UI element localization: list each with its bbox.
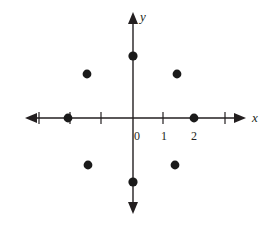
x-tick-label-0: 0 bbox=[134, 129, 140, 143]
data-point bbox=[173, 70, 182, 79]
y-axis-label: y bbox=[138, 9, 146, 24]
data-point bbox=[64, 114, 73, 123]
y-axis-down-arrow-icon bbox=[128, 202, 138, 214]
scatter-plot-svg: 0 1 2 x y bbox=[0, 0, 271, 226]
data-point bbox=[128, 51, 137, 60]
data-point bbox=[171, 161, 180, 170]
x-tick-label-1: 1 bbox=[161, 129, 167, 143]
x-axis-label: x bbox=[251, 110, 258, 125]
data-point bbox=[190, 114, 199, 123]
x-tick-label-2: 2 bbox=[191, 129, 197, 143]
y-axis-up-arrow-icon bbox=[128, 12, 138, 24]
data-point bbox=[84, 161, 93, 170]
coordinate-plane-figure: 0 1 2 x y bbox=[0, 0, 271, 226]
data-point bbox=[128, 177, 137, 186]
x-axis-right-arrow-icon bbox=[234, 113, 246, 123]
data-point bbox=[83, 70, 92, 79]
x-axis-left-arrow-icon bbox=[25, 113, 37, 123]
